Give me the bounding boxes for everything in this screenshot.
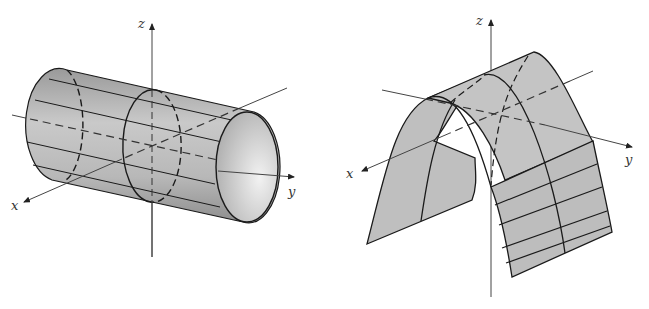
z-axis-label: z bbox=[475, 13, 483, 28]
x-axis-back bbox=[570, 71, 593, 81]
x-axis-label: x bbox=[346, 166, 354, 181]
cylinder-diagram: z y x bbox=[0, 0, 325, 309]
x-axis-back bbox=[240, 88, 287, 108]
cylinder-figure: z y x bbox=[0, 0, 325, 309]
x-axis-label: x bbox=[11, 198, 19, 213]
cylinder-end-cap bbox=[216, 112, 278, 222]
parabolic-cylinder-figure: z y x bbox=[325, 0, 649, 309]
z-axis-label: z bbox=[137, 16, 145, 31]
y-axis-label: y bbox=[624, 152, 633, 167]
y-axis-label: y bbox=[287, 184, 296, 199]
y-axis-back bbox=[382, 90, 425, 99]
parabolic-cylinder-diagram: z y x bbox=[325, 0, 649, 309]
